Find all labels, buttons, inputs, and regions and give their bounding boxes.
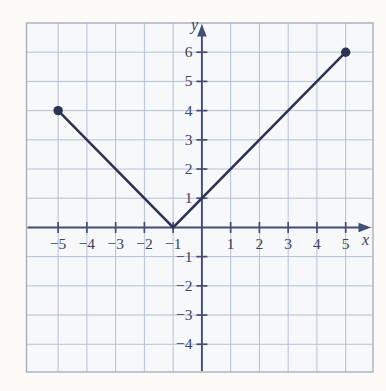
x-tick-label: −3 <box>107 235 124 252</box>
x-tick-label: 3 <box>284 235 292 252</box>
coordinate-plane: −5−4−3−2−112345654321−1−2−3−4 <box>0 0 386 391</box>
y-tick-label: 5 <box>185 72 193 89</box>
y-axis-label: y <box>183 17 198 33</box>
endpoint-dot <box>341 48 350 57</box>
x-tick-label: 1 <box>227 235 235 252</box>
x-tick-label: 2 <box>256 235 264 252</box>
x-tick-label: 5 <box>342 235 350 252</box>
y-tick-label: −3 <box>176 306 193 323</box>
y-tick-label: 2 <box>185 160 193 177</box>
x-tick-label: 4 <box>313 235 321 252</box>
x-tick-label: −5 <box>50 235 67 252</box>
endpoint-dot <box>53 106 62 115</box>
x-tick-label: −2 <box>136 235 153 252</box>
x-axis-label: x <box>362 232 369 248</box>
y-tick-label: 4 <box>185 102 193 119</box>
graph-panel: −5−4−3−2−112345654321−1−2−3−4 y x <box>0 0 386 391</box>
y-tick-label: 3 <box>185 131 193 148</box>
y-tick-label: −4 <box>176 335 193 352</box>
y-tick-label: 1 <box>185 189 193 206</box>
x-tick-label: −4 <box>79 235 96 252</box>
y-tick-label: −2 <box>176 277 193 294</box>
y-tick-label: 6 <box>185 43 193 60</box>
y-tick-label: −1 <box>176 248 193 265</box>
